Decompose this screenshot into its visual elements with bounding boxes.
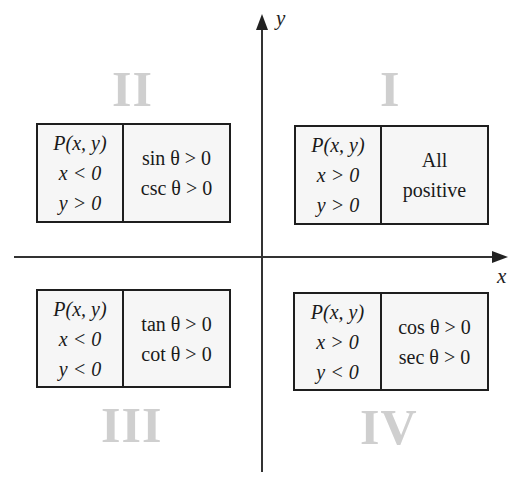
quadrant-numeral-iv: IV (360, 402, 418, 452)
sign-line: sin θ > 0 (142, 143, 211, 173)
sign-line: csc θ > 0 (141, 173, 212, 203)
quadrant-iv-signs: cos θ > 0 sec θ > 0 (382, 294, 487, 389)
quadrant-ii-signs: sin θ > 0 csc θ > 0 (124, 125, 229, 221)
x-condition: x > 0 (316, 327, 358, 357)
x-axis-arrow-icon (492, 251, 508, 263)
y-axis (261, 26, 263, 472)
y-condition: y > 0 (317, 190, 359, 220)
x-axis (14, 256, 496, 258)
y-condition: y < 0 (59, 354, 101, 384)
x-axis-label: x (497, 264, 506, 289)
point-label: P(x, y) (53, 128, 106, 158)
y-axis-arrow-icon (256, 14, 268, 30)
sign-line: sec θ > 0 (399, 342, 470, 372)
quadrant-i-box: P(x, y) x > 0 y > 0 All positive (294, 125, 489, 225)
point-label: P(x, y) (311, 130, 364, 160)
quadrant-ii-box: P(x, y) x < 0 y > 0 sin θ > 0 csc θ > 0 (36, 123, 231, 223)
quadrant-iii-box: P(x, y) x < 0 y < 0 tan θ > 0 cot θ > 0 (36, 289, 231, 388)
point-label: P(x, y) (53, 294, 106, 324)
y-axis-label: y (276, 6, 285, 31)
quadrant-numeral-ii: II (112, 64, 153, 114)
x-condition: x < 0 (59, 158, 101, 188)
quadrant-iv-conditions: P(x, y) x > 0 y < 0 (295, 294, 382, 389)
quadrant-i-conditions: P(x, y) x > 0 y > 0 (296, 127, 382, 223)
sign-line: cos θ > 0 (398, 312, 471, 342)
x-condition: x < 0 (59, 324, 101, 354)
sign-line: tan θ > 0 (141, 309, 211, 339)
x-condition: x > 0 (317, 160, 359, 190)
sign-line: cot θ > 0 (141, 339, 211, 369)
sign-line: All (422, 145, 448, 175)
quadrant-ii-conditions: P(x, y) x < 0 y > 0 (38, 125, 124, 221)
quadrant-iii-signs: tan θ > 0 cot θ > 0 (124, 291, 229, 386)
quadrant-numeral-i: I (380, 64, 400, 114)
quadrant-i-signs: All positive (382, 127, 487, 223)
quadrant-numeral-iii: III (101, 400, 162, 450)
y-condition: y < 0 (316, 357, 358, 387)
sign-line: positive (403, 175, 466, 205)
quadrant-iii-conditions: P(x, y) x < 0 y < 0 (38, 291, 124, 386)
quadrant-iv-box: P(x, y) x > 0 y < 0 cos θ > 0 sec θ > 0 (293, 292, 489, 391)
point-label: P(x, y) (311, 297, 364, 327)
y-condition: y > 0 (59, 188, 101, 218)
